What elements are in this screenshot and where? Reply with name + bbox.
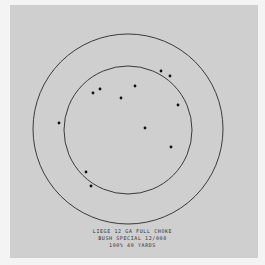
pellet-hit bbox=[169, 75, 172, 78]
inner-ring bbox=[64, 66, 192, 194]
pattern-target bbox=[0, 0, 265, 265]
outer-ring bbox=[33, 34, 223, 224]
pellet-hit bbox=[92, 92, 95, 95]
caption-line-3: 100% 40 YARDS bbox=[0, 242, 265, 249]
pellet-hit bbox=[85, 171, 88, 174]
pellet-hit bbox=[120, 97, 123, 100]
pellet-hit bbox=[134, 85, 137, 88]
pellet-hit bbox=[177, 104, 180, 107]
pellet-hit bbox=[99, 88, 102, 91]
pellet-hit bbox=[160, 70, 163, 73]
caption-line-2: BUSH SPECIAL 12/008 bbox=[0, 235, 265, 242]
caption-line-1: LIEGE 12 GA FULL CHOKE bbox=[0, 228, 265, 235]
pellet-hit bbox=[90, 185, 93, 188]
pellet-hit bbox=[170, 146, 173, 149]
pellet-hit bbox=[58, 122, 61, 125]
pellet-hit bbox=[144, 127, 147, 130]
